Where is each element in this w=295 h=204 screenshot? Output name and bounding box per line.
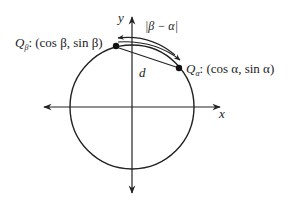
unit-circle-diagram: x y |β − α| d Qβ: (cos β, sin β) Qα: (co… bbox=[0, 0, 295, 204]
point-q-beta bbox=[113, 43, 119, 49]
q-beta-label: Qβ: (cos β, sin β) bbox=[15, 35, 103, 52]
y-axis-label: y bbox=[116, 10, 124, 25]
arc-length-label: |β − α| bbox=[145, 19, 178, 33]
chord-label: d bbox=[139, 65, 146, 80]
q-beta-coords: : (cos β, sin β) bbox=[28, 35, 102, 50]
x-axis-label: x bbox=[218, 106, 225, 121]
point-q-alpha bbox=[176, 65, 182, 71]
q-alpha-coords: : (cos α, sin α) bbox=[200, 61, 275, 76]
q-alpha-label: Qα: (cos α, sin α) bbox=[186, 61, 274, 78]
